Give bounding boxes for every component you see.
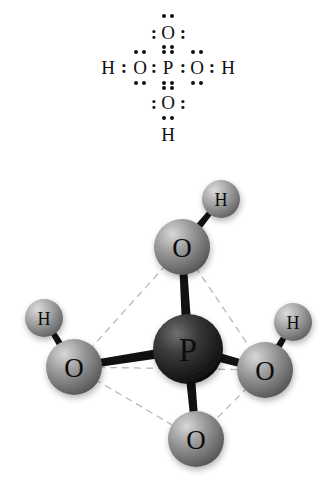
- atom-h-right: H: [274, 303, 312, 341]
- atom-h-left: H: [25, 299, 63, 337]
- atom-layer: HOHHPOOO: [25, 180, 312, 467]
- lewis-atom-h-bottom: H: [160, 125, 176, 144]
- atom-label-h-right: H: [287, 313, 300, 333]
- dots-above-p: [160, 50, 176, 55]
- lewis-atom-o-top: O: [160, 23, 176, 42]
- atom-label-o-bottom: O: [186, 425, 206, 455]
- lewis-atom-o-right: O: [189, 58, 205, 77]
- dots-below-o-bottom: [160, 116, 176, 121]
- atom-label-o-left: O: [64, 353, 84, 383]
- colon-o-left-p: :: [149, 57, 159, 76]
- atom-label-h-left: H: [38, 309, 51, 329]
- atom-label-h-top: H: [215, 190, 228, 210]
- lewis-dot-structure: ::::::::OHOPOHOH: [0, 0, 336, 155]
- atom-label-p: P: [179, 332, 197, 368]
- colon-o-top-right: :: [178, 23, 188, 42]
- atom-o-bottom: O: [168, 411, 224, 467]
- dots-below-o-left: [132, 81, 148, 86]
- colon-p-o-right: :: [178, 57, 188, 76]
- colon-o-bot-right: :: [178, 93, 188, 112]
- atom-h-top: H: [202, 180, 240, 218]
- colon-o-top-left: :: [149, 23, 159, 42]
- dots-above-o-top: [160, 14, 176, 19]
- dots-above-o-left: [132, 50, 148, 55]
- dots-above-o-right: [189, 50, 205, 55]
- atom-o-left: O: [46, 339, 102, 395]
- colon-o-right-h: :: [207, 57, 217, 76]
- lewis-atom-o-left: O: [132, 58, 148, 77]
- model-svg: HOHHPOOO: [0, 155, 336, 484]
- dots-above-o-bottom: [160, 86, 176, 91]
- ball-and-stick-model: HOHHPOOO: [0, 155, 336, 484]
- lewis-atom-h-left: H: [100, 58, 116, 77]
- atom-p: P: [153, 314, 223, 384]
- colon-o-bot-left: :: [149, 93, 159, 112]
- atom-label-o-top: O: [172, 233, 192, 263]
- lewis-atom-p-center: P: [160, 58, 176, 77]
- dots-below-o-right: [189, 81, 205, 86]
- atom-o-top: O: [154, 219, 210, 275]
- lewis-atom-o-bottom: O: [160, 93, 176, 112]
- colon-h-left-o: :: [119, 57, 129, 76]
- atom-label-o-right: O: [255, 356, 275, 386]
- atom-o-right: O: [237, 342, 293, 398]
- figure-canvas: ::::::::OHOPOHOH: [0, 0, 336, 484]
- lewis-atom-h-right: H: [220, 58, 236, 77]
